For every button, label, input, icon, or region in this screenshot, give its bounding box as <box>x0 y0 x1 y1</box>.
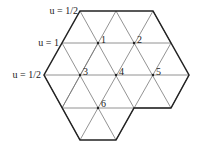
vertex-label-3: 3 <box>83 66 88 77</box>
vertex-dots <box>79 42 154 109</box>
triangular-mesh-diagram: 1 2 3 4 5 6 u = 1/2 u = 1 u = 1/2 <box>0 0 198 147</box>
vertex-label-6: 6 <box>101 98 106 109</box>
boundary-label-top: u = 1/2 <box>50 5 78 16</box>
boundary-label-bottom: u = 1/2 <box>13 69 41 80</box>
vertex-label-5: 5 <box>156 66 161 77</box>
boundary-label-middle: u = 1 <box>38 37 59 48</box>
vertex-label-1: 1 <box>101 34 106 45</box>
vertex-label-4: 4 <box>119 66 124 77</box>
vertex-label-2: 2 <box>137 34 142 45</box>
